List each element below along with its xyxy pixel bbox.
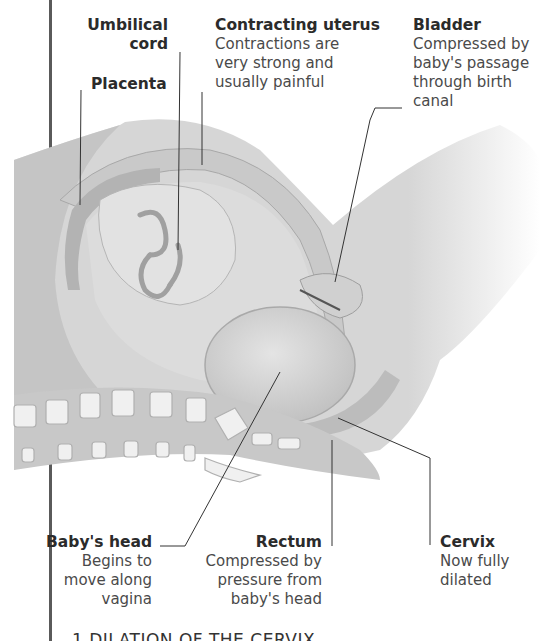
cervix-desc-2: dilated xyxy=(440,571,509,590)
label-babys-head: Baby's head Begins to move along vagina xyxy=(40,533,152,609)
babys-head-title: Baby's head xyxy=(40,533,152,552)
label-rectum: Rectum Compressed by pressure from baby'… xyxy=(190,533,322,609)
label-umbilical-cord: Umbilical cord xyxy=(82,16,168,54)
contracting-uterus-desc-2: very strong and xyxy=(215,54,380,73)
label-placenta: Placenta xyxy=(91,75,167,94)
babys-head-desc-1: Begins to xyxy=(40,552,152,571)
contracting-uterus-desc-3: usually painful xyxy=(215,73,380,92)
rectum-desc-1: Compressed by xyxy=(190,552,322,571)
umbilical-cord-title-line1: Umbilical xyxy=(82,16,168,35)
bladder-desc-1: Compressed by xyxy=(413,35,529,54)
label-bladder: Bladder Compressed by baby's passage thr… xyxy=(413,16,529,111)
bladder-desc-2: baby's passage xyxy=(413,54,529,73)
bladder-desc-3: through birth xyxy=(413,73,529,92)
babys-head-desc-2: move along xyxy=(40,571,152,590)
placenta-title: Placenta xyxy=(91,75,167,94)
umbilical-cord-title-line2: cord xyxy=(82,35,168,54)
rectum-title: Rectum xyxy=(190,533,322,552)
label-cervix: Cervix Now fully dilated xyxy=(440,533,509,590)
contracting-uterus-desc-1: Contractions are xyxy=(215,35,380,54)
babys-head-desc-3: vagina xyxy=(40,590,152,609)
bladder-desc-4: canal xyxy=(413,92,529,111)
rectum-desc-2: pressure from xyxy=(190,571,322,590)
contracting-uterus-title: Contracting uterus xyxy=(215,16,380,35)
label-contracting-uterus: Contracting uterus Contractions are very… xyxy=(215,16,380,92)
bladder-title: Bladder xyxy=(413,16,529,35)
cervix-title: Cervix xyxy=(440,533,509,552)
rectum-desc-3: baby's head xyxy=(190,590,322,609)
figure-caption: 1 DILATION OF THE CERVIX xyxy=(72,629,372,641)
cervix-desc-1: Now fully xyxy=(440,552,509,571)
